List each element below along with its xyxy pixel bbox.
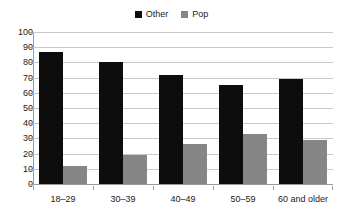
legend-entry-other: Other — [135, 8, 169, 20]
bar-group — [213, 32, 273, 184]
bar-pop-3 — [183, 144, 207, 184]
x-axis-tick-mark — [93, 186, 94, 190]
x-axis-tick-mark — [153, 186, 154, 190]
bar-group — [93, 32, 153, 184]
x-axis-tick-mark — [33, 186, 34, 190]
legend-swatch-pop-icon — [181, 11, 188, 18]
bar-group — [273, 32, 333, 184]
legend-label-pop: Pop — [192, 9, 208, 19]
x-axis-label: 50–59 — [213, 194, 273, 204]
bar-other-2 — [99, 62, 123, 184]
x-axis-tick-mark — [213, 186, 214, 190]
y-axis: 1009080706050403020100 — [0, 32, 33, 185]
x-axis-label: 60 and older — [273, 194, 333, 204]
bar-group — [33, 32, 93, 184]
x-axis-label: 18–29 — [33, 194, 93, 204]
bar-other-4 — [219, 85, 243, 184]
bar-pop-4 — [243, 134, 267, 184]
bar-group — [153, 32, 213, 184]
plot-area — [33, 32, 333, 185]
legend-entry-pop: Pop — [181, 8, 208, 20]
chart-legend: Other Pop — [0, 8, 343, 20]
bar-chart: Other Pop 1009080706050403020100 18–2930… — [0, 0, 343, 213]
x-axis-tick-mark — [273, 186, 274, 190]
bar-other-5 — [279, 79, 303, 184]
bar-pop-1 — [63, 166, 87, 184]
legend-label-other: Other — [146, 9, 169, 19]
bar-pop-5 — [303, 140, 327, 184]
x-axis-label: 40–49 — [153, 194, 213, 204]
bar-other-1 — [39, 52, 63, 184]
legend-swatch-other-icon — [135, 11, 142, 18]
bar-other-3 — [159, 75, 183, 184]
x-axis-tick-mark — [332, 186, 333, 190]
bar-pop-2 — [123, 155, 147, 184]
x-axis-label: 30–39 — [93, 194, 153, 204]
x-axis: 18–2930–3940–4950–5960 and older — [33, 186, 333, 213]
x-axis-line — [33, 184, 333, 185]
